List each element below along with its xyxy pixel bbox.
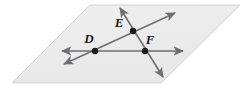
point-dot-f — [142, 48, 148, 54]
point-label-e: E — [114, 15, 124, 30]
geometry-figure: D E F — [0, 0, 249, 89]
point-label-d: D — [83, 31, 94, 46]
point-dot-d — [92, 48, 98, 54]
point-label-f: F — [145, 32, 155, 47]
point-dot-e — [130, 28, 136, 34]
figure-canvas: D E F — [0, 0, 249, 89]
